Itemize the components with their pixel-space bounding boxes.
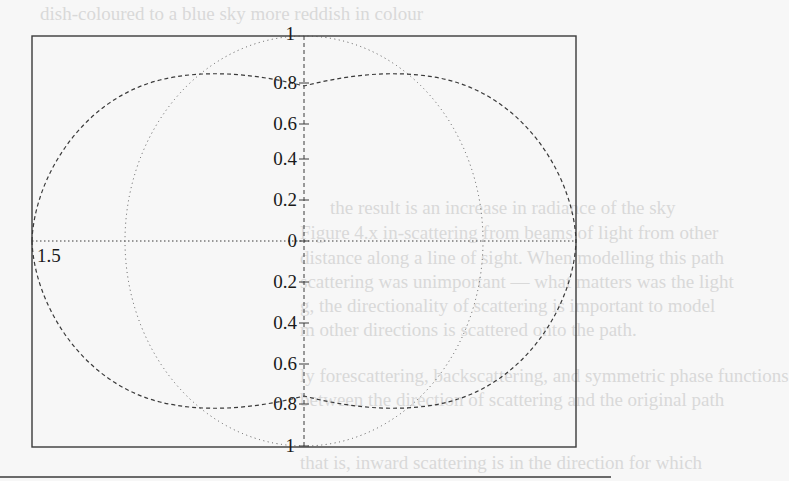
tick-label-top-0.4: 0.4 <box>273 148 297 169</box>
tick-label-top-0.6: 0.6 <box>273 113 297 134</box>
tick-label-bottom-0.6: 0.6 <box>273 353 297 374</box>
tick-label-top-1: 1 <box>286 23 296 44</box>
tick-label-top-0.8: 0.8 <box>273 72 297 93</box>
tick-label-bottom-0.4: 0.4 <box>273 312 297 333</box>
y-axis-tick-labels: 1 0.8 0.6 0.4 0.2 0 0.2 0.4 0.6 0.8 1 1.… <box>37 23 298 456</box>
tick-label-zero: 0 <box>288 230 298 251</box>
x-extent-label: 1.5 <box>37 245 61 266</box>
tick-label-bottom-0.8: 0.8 <box>273 393 297 414</box>
tick-label-bottom-0.2: 0.2 <box>273 271 297 292</box>
page-bottom-rule <box>0 476 611 478</box>
tick-label-bottom-1: 1 <box>286 435 296 456</box>
tick-label-top-0.2: 0.2 <box>273 189 297 210</box>
